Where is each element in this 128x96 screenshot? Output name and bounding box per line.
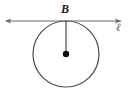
tangent-point-label: B: [61, 3, 69, 15]
line-label: ℓ: [116, 22, 121, 33]
geometry-figure: B ℓ: [0, 0, 128, 96]
center-point: [63, 51, 69, 57]
